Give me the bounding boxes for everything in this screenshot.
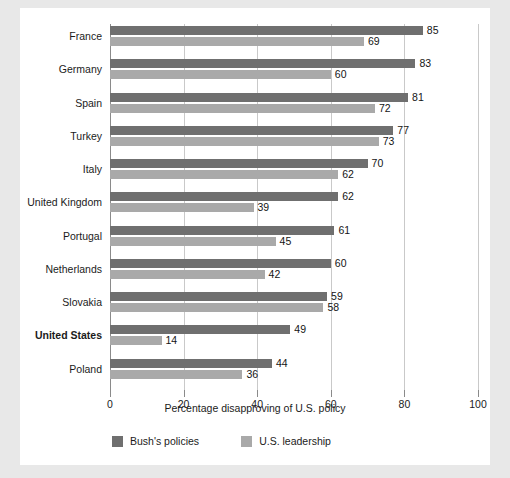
bar bbox=[110, 70, 331, 79]
tick-mark bbox=[404, 390, 405, 397]
bar-group: 6145 bbox=[110, 226, 478, 246]
legend-swatch-icon bbox=[241, 436, 252, 447]
bar-group: 6042 bbox=[110, 259, 478, 279]
bar-value-label: 77 bbox=[397, 126, 409, 135]
bar-value-label: 69 bbox=[368, 37, 380, 46]
bar-value-label: 39 bbox=[258, 203, 270, 212]
bar bbox=[110, 104, 375, 113]
bar-value-label: 45 bbox=[280, 237, 292, 246]
legend-item-us-leadership: U.S. leadership bbox=[241, 435, 331, 447]
tick-mark bbox=[331, 390, 332, 397]
bar-value-label: 62 bbox=[342, 170, 354, 179]
tick-mark bbox=[257, 390, 258, 397]
bar bbox=[110, 226, 334, 235]
category-label: Portugal bbox=[63, 231, 102, 241]
bar-value-label: 58 bbox=[327, 303, 339, 312]
plot-area: 8569836081727773706262396145604259584914… bbox=[110, 24, 478, 390]
bar-group: 7062 bbox=[110, 159, 478, 179]
bar-value-label: 42 bbox=[269, 270, 281, 279]
bar-group: 8360 bbox=[110, 59, 478, 79]
bar-value-label: 59 bbox=[331, 292, 343, 301]
bar-value-label: 60 bbox=[335, 259, 347, 268]
bar bbox=[110, 59, 415, 68]
bar-group: 7773 bbox=[110, 126, 478, 146]
bar bbox=[110, 192, 338, 201]
tick-mark bbox=[184, 390, 185, 397]
category-label: Slovakia bbox=[62, 297, 102, 307]
bar bbox=[110, 336, 162, 345]
bar-group: 6239 bbox=[110, 192, 478, 212]
bar bbox=[110, 170, 338, 179]
bar bbox=[110, 93, 408, 102]
bar bbox=[110, 325, 290, 334]
category-label: United Kingdom bbox=[27, 197, 102, 207]
bar-value-label: 44 bbox=[276, 359, 288, 368]
bar-value-label: 60 bbox=[335, 70, 347, 79]
category-label: Germany bbox=[59, 64, 102, 74]
legend-label: Bush's policies bbox=[130, 435, 199, 447]
bar bbox=[110, 370, 242, 379]
bar bbox=[110, 203, 254, 212]
bar bbox=[110, 126, 393, 135]
bar bbox=[110, 37, 364, 46]
category-axis: FranceGermanySpainTurkeyItalyUnited King… bbox=[20, 24, 102, 390]
category-label: France bbox=[69, 31, 102, 41]
bar bbox=[110, 137, 379, 146]
category-label: Turkey bbox=[70, 131, 102, 141]
legend-swatch-icon bbox=[112, 436, 123, 447]
legend-item-bush-policies: Bush's policies bbox=[112, 435, 199, 447]
bar-value-label: 14 bbox=[166, 336, 178, 345]
bar-group: 8172 bbox=[110, 93, 478, 113]
bar-value-label: 85 bbox=[427, 26, 439, 35]
bar-group: 5958 bbox=[110, 292, 478, 312]
bar-value-label: 62 bbox=[342, 192, 354, 201]
chart-legend: Bush's policies U.S. leadership bbox=[112, 434, 331, 448]
bar-value-label: 83 bbox=[419, 59, 431, 68]
bar-value-label: 49 bbox=[294, 325, 306, 334]
figure-card: FranceGermanySpainTurkeyItalyUnited King… bbox=[20, 8, 490, 465]
bar-chart: FranceGermanySpainTurkeyItalyUnited King… bbox=[20, 8, 490, 465]
bar-group: 8569 bbox=[110, 26, 478, 46]
category-label: Spain bbox=[75, 98, 102, 108]
legend-label: U.S. leadership bbox=[259, 435, 331, 447]
bar bbox=[110, 292, 327, 301]
bar bbox=[110, 359, 272, 368]
gridline bbox=[478, 24, 479, 390]
tick-mark bbox=[478, 390, 479, 397]
bar bbox=[110, 159, 368, 168]
bar bbox=[110, 26, 423, 35]
bar bbox=[110, 259, 331, 268]
tick-mark bbox=[110, 390, 111, 397]
bar-value-label: 81 bbox=[412, 93, 424, 102]
bar-value-label: 36 bbox=[246, 370, 258, 379]
x-axis-label: Percentage disapproving of U.S. policy bbox=[20, 402, 490, 414]
category-label: United States bbox=[35, 330, 102, 340]
bar bbox=[110, 303, 323, 312]
category-label: Poland bbox=[69, 364, 102, 374]
bar-group: 4914 bbox=[110, 325, 478, 345]
bar-group: 4436 bbox=[110, 359, 478, 379]
category-label: Netherlands bbox=[45, 264, 102, 274]
category-label: Italy bbox=[83, 164, 102, 174]
bar bbox=[110, 270, 265, 279]
bar-value-label: 73 bbox=[383, 137, 395, 146]
bar bbox=[110, 237, 276, 246]
bar-value-label: 61 bbox=[338, 226, 350, 235]
bar-value-label: 70 bbox=[372, 159, 384, 168]
bar-value-label: 72 bbox=[379, 104, 391, 113]
